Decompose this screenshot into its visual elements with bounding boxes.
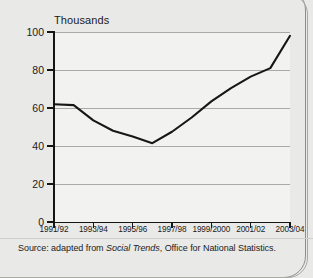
source-publication: Social Trends (106, 243, 160, 253)
x-tick-label-1995/96: 1995/96 (118, 225, 147, 234)
y-axis-unit-label: Thousands (54, 14, 109, 26)
x-tick-label-1991/92: 1991/92 (40, 225, 69, 234)
x-tick-label-2003/04: 2003/04 (276, 225, 305, 234)
x-tick-label-1993/94: 1993/94 (79, 225, 108, 234)
y-tick-100 (47, 31, 54, 33)
y-tick-20 (47, 183, 54, 185)
y-tick-label-40: 40 (14, 140, 44, 152)
y-tick-60 (47, 107, 54, 109)
data-series-line (54, 32, 290, 222)
y-tick-80 (47, 69, 54, 71)
source-prefix: Source: adapted from (18, 243, 106, 253)
footer-divider (0, 238, 313, 239)
y-tick-label-20: 20 (14, 178, 44, 190)
source-note: Source: adapted from Social Trends, Offi… (18, 243, 276, 253)
y-tick-40 (47, 145, 54, 147)
y-tick-label-100: 100 (14, 26, 44, 38)
y-tick-label-80: 80 (14, 64, 44, 76)
x-tick-label-2001/02: 2001/02 (236, 225, 265, 234)
y-tick-label-60: 60 (14, 102, 44, 114)
y-axis-line (53, 31, 55, 223)
x-tick-label-1997/98: 1997/98 (158, 225, 187, 234)
source-suffix: , Office for National Statistics. (160, 243, 276, 253)
x-tick-label-1999/2000: 1999/2000 (192, 225, 230, 234)
